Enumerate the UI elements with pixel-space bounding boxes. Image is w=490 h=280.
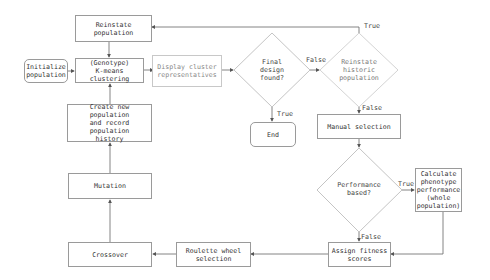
manual-selection-box: Manual selection [317, 114, 401, 139]
end-box: End [250, 122, 296, 147]
assign-fitness-box: Assign fitness scores [328, 242, 391, 267]
performance-based-decision: Performance based? [327, 178, 391, 200]
flowchart-canvas: Reinstate population Initialize populati… [0, 0, 490, 280]
roulette-selection-box: Roulette wheel selection [176, 242, 251, 267]
perf-true-label: True [398, 180, 414, 188]
reinstate-population-box: Reinstate population [75, 15, 152, 42]
reinstate-historic-decision: Reinstate historic population [330, 55, 388, 85]
final-design-decision: Final design found? [244, 55, 300, 85]
display-cluster-box: Display cluster representatives [152, 55, 222, 87]
create-new-population-box: Create new population and record populat… [67, 104, 152, 142]
crossover-box: Crossover [68, 242, 152, 267]
kmeans-clustering-box: (Genotype) K-means clustering [75, 58, 144, 83]
historic-true-label: True [364, 22, 380, 30]
mutation-box: Mutation [68, 173, 152, 199]
calculate-performance-box: Calculate phenotype performance (whole p… [415, 168, 462, 212]
historic-false-label: False [362, 104, 382, 112]
perf-false-label: False [361, 233, 381, 241]
initialize-population-box: Initialize population [24, 59, 68, 83]
final-false-label: False [306, 56, 326, 64]
final-true-label: True [277, 110, 293, 118]
